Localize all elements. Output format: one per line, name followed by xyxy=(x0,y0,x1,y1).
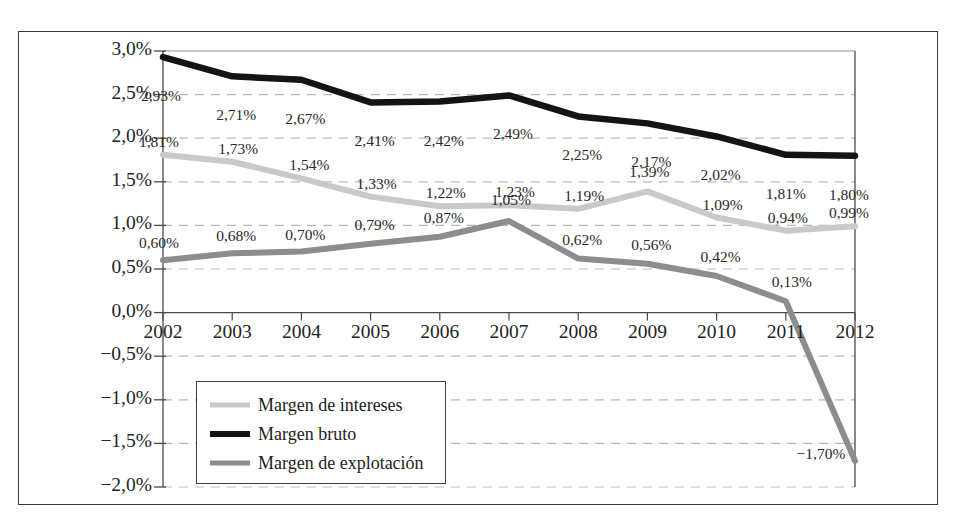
y-axis-tick-label: −2,0% xyxy=(40,474,152,496)
data-point-label: 0,94% xyxy=(754,209,822,227)
data-point-label: 0,99% xyxy=(815,204,883,222)
y-axis-tick-label: 1,5% xyxy=(40,169,152,191)
data-point-label: 2,25% xyxy=(548,146,616,164)
y-axis-tick-label: −1,5% xyxy=(40,430,152,452)
legend-label-margen-de-explotacion: Margen de explotación xyxy=(258,454,424,472)
data-point-label: 1,54% xyxy=(275,156,343,174)
data-point-label: 2,93% xyxy=(127,87,195,105)
y-axis-tick-label: 1,0% xyxy=(40,212,152,234)
data-point-label: 0,56% xyxy=(617,236,685,254)
x-axis-tick-label: 2007 xyxy=(469,321,549,343)
data-point-label: 0,68% xyxy=(202,227,270,245)
legend-item-margen-bruto[interactable]: Margen bruto xyxy=(209,419,445,448)
y-axis-tick-label: 3,0% xyxy=(40,38,152,60)
data-point-label: 1,09% xyxy=(689,196,757,214)
legend-item-margen-de-explotacion[interactable]: Margen de explotación xyxy=(209,448,445,477)
legend-swatch-margen-bruto xyxy=(209,429,251,439)
data-point-label: 1,73% xyxy=(204,140,272,158)
data-point-label: 0,62% xyxy=(548,231,616,249)
x-axis-tick-label: 2008 xyxy=(538,321,618,343)
data-point-label: 2,67% xyxy=(271,110,339,128)
y-axis-tick-label: 0,0% xyxy=(40,300,152,322)
data-point-label: −1,70% xyxy=(787,445,855,463)
data-point-label: 1,05% xyxy=(477,191,545,209)
chart-page: 3,0%2,5%2,0%1,5%1,0%0,5%0,0%−0,5%−1,0%−1… xyxy=(0,0,954,525)
data-point-label: 2,49% xyxy=(479,125,547,143)
x-axis-tick-label: 2004 xyxy=(261,321,341,343)
chart-legend: Margen de intereses Margen bruto Margen … xyxy=(196,381,446,484)
data-point-label: 2,41% xyxy=(341,132,409,150)
legend-swatch-margen-de-explotacion xyxy=(209,458,251,468)
y-axis-tick-label: −1,0% xyxy=(40,387,152,409)
legend-swatch-margen-de-intereses xyxy=(209,400,251,410)
x-axis-tick-label: 2011 xyxy=(746,321,826,343)
data-point-label: 2,02% xyxy=(687,166,755,184)
y-axis-tick-label: −0,5% xyxy=(40,343,152,365)
x-tick-marks xyxy=(163,313,855,321)
data-point-label: 2,42% xyxy=(410,132,478,150)
data-point-label: 1,19% xyxy=(550,187,618,205)
data-point-label: 1,22% xyxy=(412,184,480,202)
legend-item-margen-de-intereses[interactable]: Margen de intereses xyxy=(209,390,445,419)
x-axis-tick-label: 2010 xyxy=(677,321,757,343)
data-point-label: 0,70% xyxy=(271,226,339,244)
data-point-label: 0,42% xyxy=(687,248,755,266)
data-point-label: 0,87% xyxy=(410,209,478,227)
x-axis-tick-label: 2003 xyxy=(192,321,272,343)
data-point-label: 1,80% xyxy=(815,186,883,204)
legend-label-margen-de-intereses: Margen de intereses xyxy=(258,396,403,414)
data-point-label: 0,60% xyxy=(125,234,193,252)
x-axis-tick-label: 2005 xyxy=(331,321,411,343)
y-axis-tick-label: 0,5% xyxy=(40,256,152,278)
x-axis-tick-label: 2006 xyxy=(400,321,480,343)
data-point-label: 0,13% xyxy=(758,273,826,291)
x-axis-tick-label: 2002 xyxy=(123,321,203,343)
x-axis-tick-label: 2012 xyxy=(815,321,895,343)
data-point-label: 0,79% xyxy=(341,216,409,234)
data-point-label: 2,17% xyxy=(617,153,685,171)
x-axis-tick-label: 2009 xyxy=(607,321,687,343)
data-point-label: 2,71% xyxy=(202,106,270,124)
data-point-label: 1,81% xyxy=(752,185,820,203)
data-point-label: 1,33% xyxy=(343,175,411,193)
data-point-label: 1,81% xyxy=(125,133,193,151)
legend-label-margen-bruto: Margen bruto xyxy=(258,425,356,443)
